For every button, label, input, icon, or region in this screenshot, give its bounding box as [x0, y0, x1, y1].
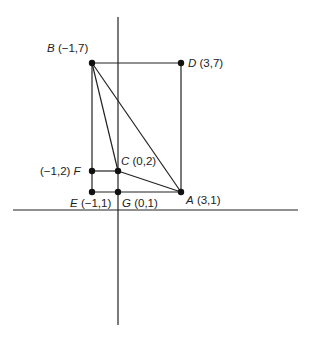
label-G: G (0,1): [122, 197, 158, 209]
segment-CA: [118, 171, 181, 192]
label-D: D (3,7): [188, 57, 223, 69]
label-F: (−1,2) F: [40, 165, 82, 177]
label-E: E (−1,1): [70, 197, 111, 209]
point-D: [178, 60, 184, 66]
point-E: [89, 189, 95, 195]
label-B: B (−1,7): [47, 42, 88, 54]
coordinate-diagram: B (−1,7) D (3,7) (−1,2) F C (0,2) E (−1,…: [0, 0, 310, 338]
point-C: [115, 168, 121, 174]
label-C: C (0,2): [121, 155, 156, 167]
point-B: [89, 60, 95, 66]
point-F: [89, 168, 95, 174]
label-A: A (3,1): [185, 194, 221, 206]
point-A: [178, 189, 184, 195]
segment-BA: [92, 63, 181, 192]
segment-BC: [92, 63, 118, 171]
point-G: [115, 189, 121, 195]
